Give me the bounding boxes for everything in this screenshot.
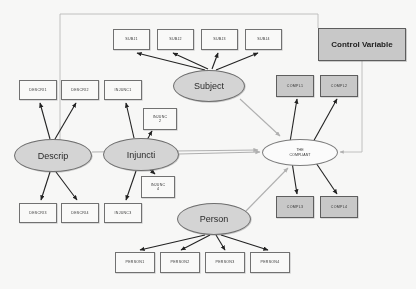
indicator-compl1-label: COMPL1 [287, 84, 303, 88]
indicator-injunc4-line2: 4 [151, 187, 166, 191]
indicator-person4-label: PERSON4 [261, 260, 280, 264]
indicator-person3-label: PERSON3 [216, 260, 235, 264]
indicator-compl3-label: COMPL3 [287, 205, 303, 209]
indicator-descri2-label: DESCRI2 [71, 88, 88, 92]
indicator-person1[interactable]: PERSON1 [115, 252, 155, 273]
outcome-the-compliant[interactable]: THE COMPLIANT [262, 139, 338, 166]
indicator-subj2-label: SUBJ2 [169, 37, 181, 41]
indicator-subj3[interactable]: SUBJ3 [201, 29, 238, 50]
indicator-person2-label: PERSON2 [171, 260, 190, 264]
indicator-injunc3-label: INJUNC3 [115, 211, 132, 215]
indicator-injunc1-label: INJUNC1 [115, 88, 132, 92]
latent-subject-label: Subject [194, 81, 224, 91]
indicator-subj4[interactable]: SUBJ4 [245, 29, 282, 50]
indicator-compl2[interactable]: COMPL2 [320, 75, 358, 97]
indicator-subj2[interactable]: SUBJ2 [157, 29, 194, 50]
indicator-injunc4[interactable]: INJUNC 4 [141, 176, 175, 198]
indicator-descri4-label: DESCRI4 [71, 211, 88, 215]
indicator-compl4-label: COMPL4 [331, 205, 347, 209]
indicator-compl4[interactable]: COMPL4 [320, 196, 358, 218]
indicator-injunc1[interactable]: INJUNC1 [104, 80, 142, 100]
indicator-person3[interactable]: PERSON3 [205, 252, 245, 273]
indicator-descri3[interactable]: DESCRI3 [19, 203, 57, 223]
indicator-person4[interactable]: PERSON4 [250, 252, 290, 273]
latent-descrip-label: Descrip [38, 151, 69, 161]
latent-person-label: Person [200, 214, 229, 224]
indicator-injunc3[interactable]: INJUNC3 [104, 203, 142, 223]
indicator-compl3[interactable]: COMPL3 [276, 196, 314, 218]
indicator-subj1-label: SUBJ1 [125, 37, 137, 41]
indicator-injunc2-line2: 2 [153, 119, 168, 123]
latent-person[interactable]: Person [177, 203, 251, 235]
indicator-compl1[interactable]: COMPL1 [276, 75, 314, 97]
indicator-person2[interactable]: PERSON2 [160, 252, 200, 273]
indicator-subj1[interactable]: SUBJ1 [113, 29, 150, 50]
indicator-descri1-label: DESCRI1 [29, 88, 46, 92]
control-variable-label: Control Variable [331, 40, 392, 49]
outcome-line2: COMPLIANT [290, 153, 311, 158]
indicator-injunc2[interactable]: INJUNC 2 [143, 108, 177, 130]
latent-subject[interactable]: Subject [173, 70, 245, 102]
latent-descrip[interactable]: Descrip [14, 139, 92, 172]
indicator-subj3-label: SUBJ3 [213, 37, 225, 41]
indicator-subj4-label: SUBJ4 [257, 37, 269, 41]
latent-injuncti[interactable]: Injuncti [103, 138, 179, 171]
indicator-descri1[interactable]: DESCRI1 [19, 80, 57, 100]
indicator-person1-label: PERSON1 [126, 260, 145, 264]
path-diagram-canvas: Descrip Injuncti Subject Person THE COMP… [0, 0, 416, 289]
indicator-descri4[interactable]: DESCRI4 [61, 203, 99, 223]
control-variable-box[interactable]: Control Variable [318, 28, 406, 61]
indicator-compl2-label: COMPL2 [331, 84, 347, 88]
indicator-descri2[interactable]: DESCRI2 [61, 80, 99, 100]
latent-injuncti-label: Injuncti [127, 150, 156, 160]
indicator-descri3-label: DESCRI3 [29, 211, 46, 215]
